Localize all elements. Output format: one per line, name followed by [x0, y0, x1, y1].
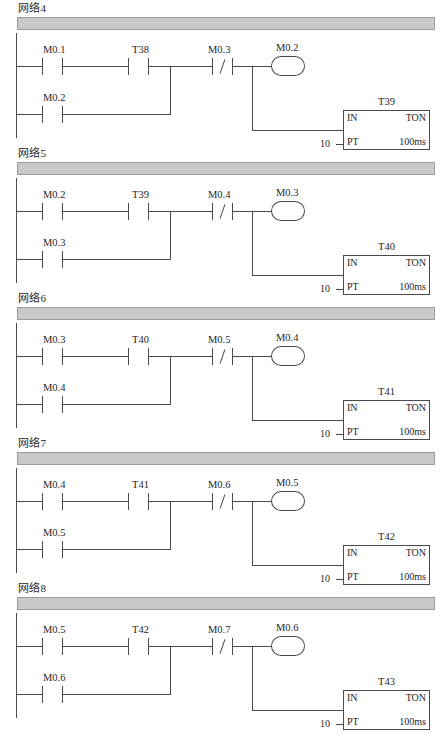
branch-wire-segment [62, 259, 171, 260]
output-coil[interactable] [271, 56, 305, 76]
contact-bar-left [42, 203, 43, 220]
rung-wire-segment [16, 501, 43, 502]
rung-wire-segment [148, 356, 213, 357]
contact-3[interactable] [212, 493, 233, 510]
contact-1[interactable] [42, 203, 63, 220]
contact-3-label: M0.4 [208, 189, 230, 201]
timer-block[interactable]: IN TON PT 100ms [343, 110, 430, 150]
timer-block[interactable]: IN TON PT 100ms [343, 255, 430, 295]
normally-closed-slash-icon [220, 639, 226, 654]
branch-wire-segment [62, 114, 171, 115]
coil-arc-left [271, 56, 288, 76]
timer-name-label: T41 [378, 386, 395, 398]
rung-wire-segment [16, 356, 43, 357]
contact-2-label: T41 [132, 479, 149, 491]
timer-resolution-label: 100ms [399, 716, 426, 728]
timer-in-label: IN [347, 257, 358, 269]
contact-bar-left [212, 348, 213, 365]
timer-preset-stub [336, 724, 343, 725]
contact-1[interactable] [42, 493, 63, 510]
coil-arc-left [271, 201, 288, 221]
left-power-rail [16, 468, 17, 573]
branch-contact-label: M0.5 [43, 527, 65, 539]
branch-contact[interactable] [42, 396, 63, 413]
output-coil-label: M0.4 [276, 332, 298, 344]
contact-2[interactable] [128, 348, 149, 365]
branch-riser [170, 66, 171, 115]
left-power-rail [16, 178, 17, 283]
contact-3[interactable] [212, 638, 233, 655]
branch-contact[interactable] [42, 686, 63, 703]
contact-bar-left [128, 58, 129, 75]
contact-bar-left [128, 203, 129, 220]
timer-feed-riser [252, 66, 253, 130]
coil-arc-left [271, 636, 288, 656]
network-title: 网络8 [18, 582, 46, 595]
branch-wire-segment [16, 694, 43, 695]
contact-bar-left [42, 348, 43, 365]
timer-type-label: TON [406, 257, 426, 269]
contact-2[interactable] [128, 203, 149, 220]
rung-wire-segment [62, 646, 129, 647]
ladder-network-3: 网络6 M0.3 T40 M0.5 M0.4 [0, 290, 444, 435]
timer-name-label: T43 [378, 676, 395, 688]
contact-2[interactable] [128, 638, 149, 655]
contact-3[interactable] [212, 58, 233, 75]
contact-bar-left [212, 493, 213, 510]
rung-wire-segment [62, 211, 129, 212]
ladder-diagram-page: 网络4 M0.1 T38 M0.3 M0.2 [0, 0, 444, 746]
contact-1-label: M0.1 [43, 44, 65, 56]
timer-in-label: IN [347, 547, 358, 559]
contact-2-label: T40 [132, 334, 149, 346]
normally-closed-slash-icon [220, 494, 226, 509]
timer-feed-riser [252, 211, 253, 275]
output-coil[interactable] [271, 201, 305, 221]
timer-block[interactable]: IN TON PT 100ms [343, 690, 430, 730]
ladder-network-5: 网络8 M0.5 T42 M0.7 M0.6 [0, 580, 444, 725]
contact-1[interactable] [42, 638, 63, 655]
left-power-rail [16, 33, 17, 138]
coil-arc-right [288, 56, 305, 76]
contact-1[interactable] [42, 58, 63, 75]
contact-2[interactable] [128, 58, 149, 75]
contact-1-label: M0.4 [43, 479, 65, 491]
contact-bar-left [212, 203, 213, 220]
timer-name-label: T42 [378, 531, 395, 543]
timer-in-label: IN [347, 692, 358, 704]
contact-2-label: T39 [132, 189, 149, 201]
network-title: 网络7 [18, 437, 46, 450]
timer-name-label: T40 [378, 241, 395, 253]
contact-2[interactable] [128, 493, 149, 510]
branch-contact[interactable] [42, 251, 63, 268]
output-coil[interactable] [271, 346, 305, 366]
output-coil-label: M0.6 [276, 622, 298, 634]
left-power-rail [16, 323, 17, 428]
network-title: 网络5 [18, 147, 46, 160]
left-power-rail [16, 613, 17, 718]
output-coil-label: M0.5 [276, 477, 298, 489]
normally-closed-slash-icon [220, 59, 226, 74]
output-coil[interactable] [271, 491, 305, 511]
contact-3[interactable] [212, 348, 233, 365]
timer-preset-value: 10 [320, 718, 330, 730]
branch-riser [170, 646, 171, 695]
rung-wire-segment [16, 211, 43, 212]
branch-contact-label: M0.3 [43, 237, 65, 249]
timer-type-label: TON [406, 547, 426, 559]
contact-bar-left [42, 686, 43, 703]
branch-contact[interactable] [42, 106, 63, 123]
contact-1[interactable] [42, 348, 63, 365]
branch-contact[interactable] [42, 541, 63, 558]
coil-arc-right [288, 491, 305, 511]
contact-bar-left [42, 58, 43, 75]
timer-block[interactable]: IN TON PT 100ms [343, 545, 430, 585]
coil-arc-right [288, 346, 305, 366]
contact-3[interactable] [212, 203, 233, 220]
output-coil[interactable] [271, 636, 305, 656]
branch-riser [170, 501, 171, 550]
rung-wire-segment [62, 501, 129, 502]
network-comment-band [17, 597, 435, 610]
contact-bar-left [42, 251, 43, 268]
timer-block[interactable]: IN TON PT 100ms [343, 400, 430, 440]
contact-bar-left [42, 493, 43, 510]
